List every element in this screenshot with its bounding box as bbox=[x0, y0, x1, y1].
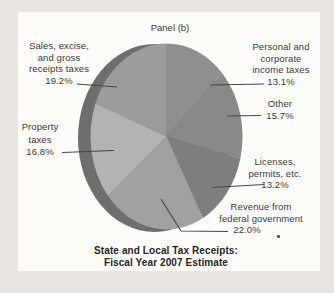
pie-label-revenue-pct: 22.0% bbox=[233, 224, 260, 236]
pie-label-revenue-text: Revenue from federal government bbox=[201, 201, 321, 224]
pie-label-personal-pct: 13.1% bbox=[231, 76, 331, 88]
chart-caption: State and Local Tax Receipts: Fiscal Yea… bbox=[66, 245, 266, 268]
pie-label-property-pct: 16.8% bbox=[0, 146, 80, 159]
pie-label-sales: Sales, excise, and gross receipts taxes … bbox=[9, 40, 109, 87]
pie-label-personal: Personal and corporate income taxes 13.1… bbox=[231, 41, 331, 88]
pie-label-licenses: Licenses, permits, etc. 13.2% bbox=[225, 156, 325, 191]
pie-label-sales-pct: 19.2% bbox=[9, 75, 109, 87]
pie-label-sales-text: Sales, excise, and gross receipts taxes bbox=[9, 40, 109, 75]
pie-label-other-text: Other bbox=[230, 98, 330, 110]
scan-speck-artifact bbox=[277, 235, 280, 238]
pie-label-personal-text: Personal and corporate income taxes bbox=[231, 41, 331, 76]
pie-chart-figure: Panel (b) Sales, excise, and gross recei… bbox=[0, 0, 334, 293]
pie-label-licenses-text: Licenses, permits, etc. bbox=[225, 156, 325, 179]
pie-label-property: Property taxes 16.8% bbox=[0, 121, 80, 159]
pie-label-property-text: Property taxes bbox=[0, 121, 80, 146]
pie-label-other: Other 15.7% bbox=[230, 98, 330, 121]
pie-label-other-pct: 15.7% bbox=[230, 110, 330, 122]
pie-label-revenue: Revenue from federal government 22.0% bbox=[201, 201, 321, 236]
pie-label-licenses-pct: 13.2% bbox=[225, 179, 325, 191]
